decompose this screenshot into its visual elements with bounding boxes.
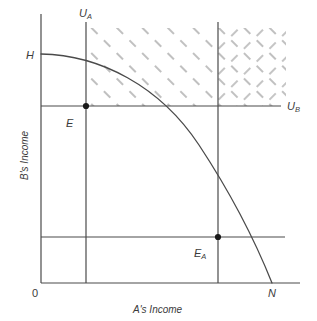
point-e-marker xyxy=(83,103,89,109)
hatched-region-cross xyxy=(218,28,286,106)
figure-container: H N 0 UA UB E EA A's Income B's Income xyxy=(0,0,317,321)
label-h: H xyxy=(26,50,34,61)
y-axis-title: B's Income xyxy=(20,131,30,180)
label-u-a-sub: A xyxy=(87,12,92,21)
diagram-canvas xyxy=(0,0,317,321)
label-u-b-sub: B xyxy=(295,105,300,114)
label-n: N xyxy=(268,288,276,299)
label-u-a: UA xyxy=(79,8,92,21)
x-axis-title: A's Income xyxy=(133,305,182,315)
label-u-a-base: U xyxy=(79,7,87,19)
label-origin: 0 xyxy=(32,288,38,299)
point-ea-marker xyxy=(215,234,221,240)
label-u-b-base: U xyxy=(287,100,295,112)
label-point-ea: EA xyxy=(194,248,206,261)
label-point-ea-sub: A xyxy=(201,252,206,261)
label-point-e: E xyxy=(66,118,73,131)
label-u-b: UB xyxy=(287,101,300,114)
label-point-e-base: E xyxy=(66,117,73,129)
